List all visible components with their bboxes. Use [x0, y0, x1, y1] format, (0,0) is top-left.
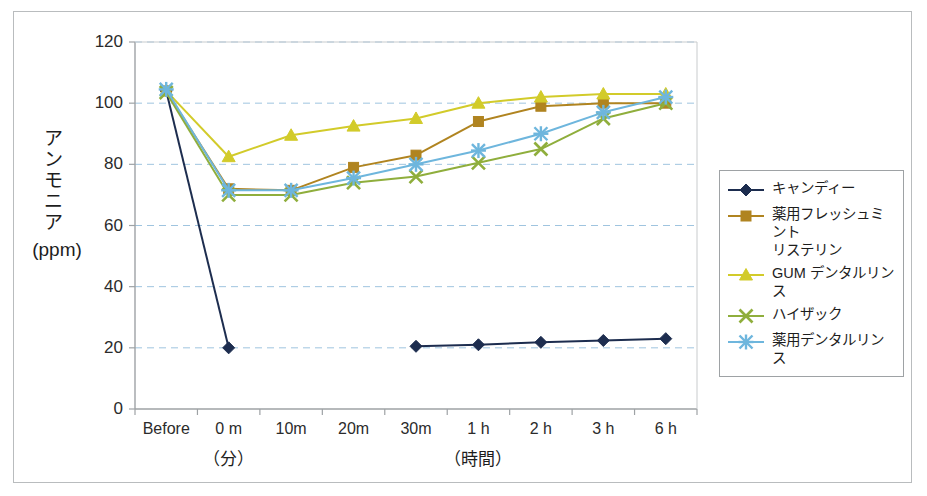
series-line-segment [291, 167, 353, 190]
data-point-marker [471, 143, 486, 158]
series-layer [159, 82, 674, 354]
data-point-marker [221, 183, 236, 198]
series-line-segment [416, 151, 478, 165]
y-tick-label: 20 [81, 338, 123, 358]
data-point-marker [284, 183, 299, 198]
x-group-label: （時間） [433, 445, 523, 470]
legend-item: 薬用フレッシュミント リステリン [726, 205, 897, 259]
legend-label: 薬用デンタルリンス [772, 331, 897, 367]
legend-marker-triangle-icon [726, 265, 766, 285]
data-point-marker [660, 333, 672, 345]
legend-item: GUM デンタルリンス [726, 264, 897, 300]
series-line-segment [354, 177, 416, 183]
data-point-marker [596, 105, 611, 120]
y-tick-label: 80 [81, 154, 123, 174]
series-line-segment [478, 149, 540, 163]
chart-legend: キャンディー薬用フレッシュミント リステリンGUM デンタルリンスハイザック薬用… [719, 170, 904, 377]
data-point-marker [597, 334, 609, 346]
x-tick-label: 6 h [629, 420, 703, 438]
chart-series [160, 85, 672, 354]
y-tick-label: 100 [81, 93, 123, 113]
series-line-segment [603, 339, 665, 341]
series-line-segment [478, 106, 540, 121]
series-line-segment [229, 135, 291, 156]
data-point-marker [739, 335, 754, 350]
series-line-segment [478, 134, 540, 151]
y-tick-label: 0 [81, 399, 123, 419]
data-point-marker [472, 339, 484, 351]
ammonia-line-chart: アンモニア (ppm) 020406080100120 Before0 m10m… [0, 0, 927, 496]
data-point-marker [533, 126, 548, 141]
data-point-marker [658, 90, 673, 105]
legend-item: 薬用デンタルリンス [726, 331, 897, 367]
data-point-marker [409, 157, 424, 172]
legend-marker-diamond-icon [726, 180, 766, 200]
legend-marker-asterisk-icon [726, 332, 766, 352]
legend-label: GUM デンタルリンス [772, 264, 897, 300]
gridlines [135, 42, 697, 348]
x-group-label: （分） [184, 445, 274, 470]
y-tick-label: 120 [81, 32, 123, 52]
data-point-marker [346, 171, 361, 186]
series-line-segment [166, 92, 228, 194]
legend-item: キャンディー [726, 179, 897, 200]
y-tick-label: 60 [81, 216, 123, 236]
series-line-segment [166, 91, 228, 348]
data-point-marker [410, 340, 422, 352]
series-line-segment [416, 345, 478, 347]
y-tick-label: 40 [81, 277, 123, 297]
series-line-segment [354, 118, 416, 126]
series-line-segment [166, 89, 228, 190]
data-point-marker [741, 211, 751, 221]
axis-tickmarks [129, 42, 697, 415]
series-line-segment [478, 342, 540, 344]
series-line-segment [541, 94, 603, 97]
data-point-marker [536, 101, 546, 111]
chart-screenshot: アンモニア (ppm) 020406080100120 Before0 m10m… [0, 0, 927, 496]
chart-series [161, 86, 671, 195]
data-point-marker [473, 117, 483, 127]
data-point-marker [740, 184, 752, 196]
series-line-segment [416, 122, 478, 156]
series-line-segment [478, 97, 540, 103]
series-line-segment [291, 126, 353, 135]
data-point-marker [223, 342, 235, 354]
legend-item: ハイザック [726, 305, 897, 326]
series-line-segment [166, 91, 228, 157]
data-point-marker [535, 336, 547, 348]
legend-label: ハイザック [772, 305, 842, 323]
series-line-segment [416, 103, 478, 118]
legend-marker-square-icon [726, 206, 766, 226]
data-point-marker [159, 82, 174, 97]
series-line-segment [416, 163, 478, 177]
legend-marker-cross-icon [726, 306, 766, 326]
series-line-segment [541, 340, 603, 342]
legend-label: キャンディー [772, 179, 855, 197]
legend-label: 薬用フレッシュミント リステリン [772, 205, 897, 259]
